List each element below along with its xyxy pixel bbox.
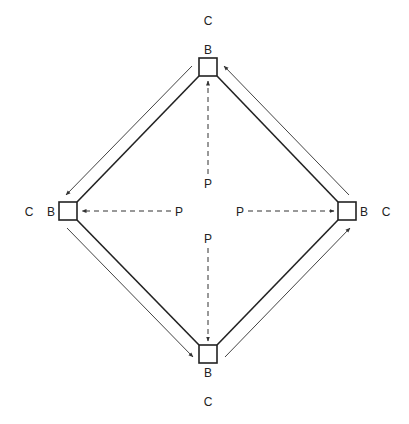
- outer-label-left: C: [25, 205, 34, 219]
- flow-arrow-bottom-to-right: [225, 228, 350, 357]
- box-label-right: B: [360, 205, 368, 219]
- source-label-left: P: [175, 205, 183, 219]
- source-label-right: P: [236, 205, 244, 219]
- node-box-left: [59, 202, 77, 220]
- outer-label-top: C: [204, 14, 213, 28]
- source-label-bottom: P: [204, 232, 212, 246]
- box-label-top: B: [204, 43, 212, 57]
- diamond-flow-diagram: C B C B B C B C P P P P: [0, 0, 409, 424]
- edge-right-bottom: [217, 220, 338, 345]
- edge-top-left: [77, 76, 199, 202]
- node-box-bottom: [199, 345, 217, 363]
- outer-label-right: C: [382, 205, 391, 219]
- flow-arrow-top-to-left: [66, 66, 192, 195]
- flow-arrow-left-to-bottom: [67, 228, 193, 357]
- node-box-top: [199, 58, 217, 76]
- source-arrows: [82, 81, 334, 341]
- box-label-left: B: [47, 205, 55, 219]
- box-label-bottom: B: [204, 366, 212, 380]
- outer-label-bottom: C: [204, 395, 213, 409]
- flow-arrow-right-to-top: [224, 66, 349, 195]
- edge-top-right: [217, 76, 338, 202]
- source-label-top: P: [204, 177, 212, 191]
- node-box-right: [338, 202, 356, 220]
- edge-left-bottom: [77, 220, 199, 345]
